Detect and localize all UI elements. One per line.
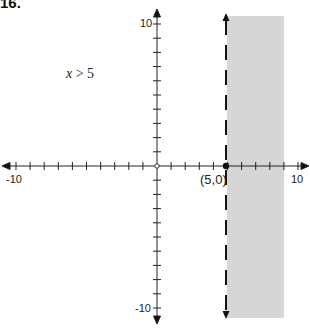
- point-label: (5,0): [200, 172, 227, 187]
- coordinate-plane: [0, 0, 310, 329]
- x-tick-label-neg10: -10: [6, 173, 22, 185]
- boundary-point: [223, 163, 229, 169]
- inequality-label: x > 5: [66, 66, 94, 82]
- y-tick-label-10: 10: [140, 17, 152, 29]
- y-tick-label-neg10: -10: [135, 302, 151, 314]
- x-tick-label-10: 10: [291, 173, 303, 185]
